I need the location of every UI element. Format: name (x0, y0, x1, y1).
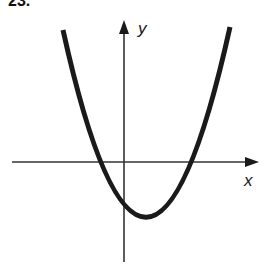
parabola-curve (63, 27, 230, 217)
parabola-graph: y x (0, 0, 268, 264)
x-axis-arrow-icon (245, 157, 259, 167)
y-axis-arrow-icon (119, 20, 129, 34)
x-axis-label: x (243, 171, 253, 190)
y-axis-label: y (137, 19, 148, 38)
